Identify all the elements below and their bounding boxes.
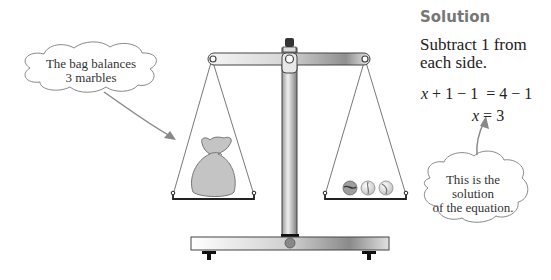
top-knob bbox=[285, 38, 294, 47]
solution-heading: Solution bbox=[420, 8, 490, 26]
foot-icon bbox=[202, 251, 216, 260]
pivot-circle bbox=[286, 55, 294, 63]
solution-step: Subtract 1 from each side. bbox=[420, 36, 550, 72]
left-callout-text: The bag balances 3 marbles bbox=[36, 57, 146, 85]
equation-rest: + 1 − 1 = 4 − 1 bbox=[428, 85, 532, 102]
scale-post bbox=[282, 48, 297, 236]
foot-icon bbox=[362, 251, 376, 260]
marble-icon bbox=[343, 181, 357, 195]
callout-line: 3 marbles bbox=[36, 71, 146, 85]
callout-line: This is the bbox=[418, 173, 528, 187]
marble-icon bbox=[379, 181, 393, 195]
balance-scale bbox=[171, 38, 408, 260]
equation-rest: = 3 bbox=[479, 107, 504, 124]
marble-icon bbox=[361, 181, 375, 195]
bag-icon bbox=[192, 137, 236, 196]
right-callout-text: This is the solution of the equation. bbox=[418, 173, 528, 215]
callout-line: of the equation. bbox=[418, 201, 528, 215]
callout-line: The bag balances bbox=[36, 57, 146, 71]
equation-step-1: x + 1 − 1 = 4 − 1 bbox=[421, 85, 532, 103]
arrow-head-icon bbox=[164, 131, 176, 140]
left-callout-arrow bbox=[104, 92, 172, 137]
equation-result: x = 3 bbox=[472, 107, 504, 125]
right-pan bbox=[325, 195, 406, 199]
callout-line: solution bbox=[418, 187, 528, 201]
